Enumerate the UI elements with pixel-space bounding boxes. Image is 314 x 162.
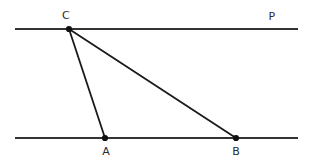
- line-label-p: P: [269, 10, 276, 23]
- vertex-label-a: A: [102, 145, 110, 158]
- geometry-figure: C A B P: [0, 0, 314, 162]
- vertex-label-b: B: [232, 145, 240, 158]
- vertex-dot-c: [66, 26, 72, 32]
- vertex-dot-a: [102, 135, 108, 141]
- geometry-canvas: C A B P: [0, 0, 314, 162]
- segment-cb: [69, 29, 236, 138]
- vertex-label-c: C: [62, 9, 70, 22]
- vertex-dot-b: [233, 135, 239, 141]
- segment-ca: [69, 29, 105, 138]
